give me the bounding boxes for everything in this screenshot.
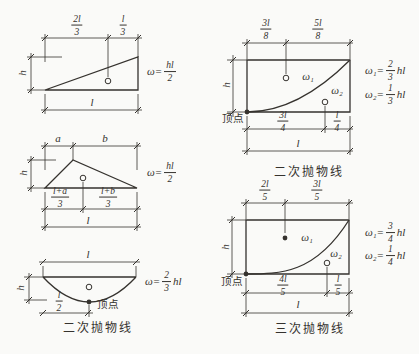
- ml-span-label: l: [86, 215, 89, 226]
- ml-dim-b-label: b: [102, 133, 108, 144]
- fraction-numerator: l+b: [99, 186, 117, 198]
- fraction-numerator: l: [334, 110, 341, 122]
- br-region2-formula: ω₂= 14 hl: [365, 244, 405, 268]
- fraction-numerator: 3l: [277, 110, 288, 122]
- bl-vertex-dot: [87, 300, 92, 305]
- tr-region2-label: ω₂: [331, 85, 343, 96]
- br-vertex-label: 顶点: [221, 277, 243, 288]
- bl-height-label: h: [15, 285, 26, 291]
- fraction-denominator: 3: [388, 96, 393, 107]
- fraction-numerator: hl: [164, 161, 175, 173]
- bl-area-formula: ω= 23 hl: [145, 270, 182, 294]
- fraction-numerator: l: [335, 274, 342, 286]
- fraction-denominator: 3: [121, 26, 126, 37]
- br-dim-top-right-label: 3l5: [311, 178, 322, 203]
- fraction-denominator: 2: [168, 73, 173, 84]
- formula-rhs: hl: [173, 277, 182, 288]
- fraction-denominator: 5: [281, 286, 286, 297]
- fraction-numerator: 3l: [311, 179, 322, 191]
- bl-span-label: l: [86, 249, 89, 260]
- tl-triangle-shape: [45, 57, 138, 90]
- tl-dim-top-right-label: l3: [120, 13, 127, 38]
- tr-dim-bot-right-label: l4: [334, 109, 341, 134]
- ml-centroid-marker: [80, 175, 86, 181]
- formula-lhs: ω₁=: [365, 228, 384, 239]
- br-region1-formula: ω₁= 34 hl: [365, 221, 405, 245]
- formula-lhs: ω₁=: [365, 66, 384, 77]
- ml-dim-bot-right-label: l+b3: [99, 185, 117, 210]
- formula-lhs: ω=: [145, 277, 160, 288]
- br-region2-label: ω₂: [330, 248, 342, 259]
- fraction-denominator: 4: [281, 122, 286, 133]
- fraction-numerator: 4l: [277, 274, 288, 286]
- formula-lhs: ω=: [147, 67, 162, 78]
- br-span-label: l: [296, 299, 299, 310]
- br-dim-bot-left-label: 4l5: [277, 273, 288, 298]
- fraction-denominator: 3: [164, 283, 169, 294]
- tr-region1-label: ω₁: [302, 71, 314, 82]
- tr-dim-top-right-label: 5l8: [312, 17, 323, 42]
- br-region1-label: ω₁: [301, 232, 313, 243]
- tr-vertex-dot: [245, 110, 250, 115]
- fraction-denominator: 3: [58, 198, 63, 209]
- br-dim-top-left-label: 2l5: [259, 178, 270, 203]
- formula-rhs: hl: [397, 228, 406, 239]
- tl-height-label: h: [17, 70, 28, 76]
- tr-region2-formula: ω₂= 13 hl: [365, 83, 405, 107]
- tl-centroid-marker: [105, 78, 111, 84]
- fraction-denominator: 5: [263, 191, 268, 202]
- br-caption: 三次抛物线: [275, 323, 345, 335]
- fraction-denominator: 3: [106, 198, 111, 209]
- formula-lhs: ω=: [147, 168, 162, 179]
- tr-dim-bot-left-label: 3l4: [277, 109, 288, 134]
- bl-vertex-label: 顶点: [97, 300, 119, 311]
- fraction-numerator: 2: [162, 270, 171, 282]
- fraction-numerator: 2: [386, 59, 395, 71]
- fraction-numerator: 1: [386, 244, 395, 256]
- fraction-numerator: l+a: [51, 186, 69, 198]
- tr-height-label: h: [221, 82, 232, 88]
- fraction-denominator: 5: [336, 286, 341, 297]
- tr-region1-formula: ω₁= 23 hl: [365, 59, 405, 83]
- tr-caption: 二次抛物线: [274, 166, 344, 178]
- fraction-denominator: 2: [57, 302, 62, 313]
- br-dim-bot-right-label: l5: [335, 273, 342, 298]
- bl-centroid-marker: [86, 284, 92, 290]
- tr-vertex-label: 顶点: [222, 114, 244, 125]
- formula-rhs: hl: [397, 90, 406, 101]
- bl-caption: 二次抛物线: [63, 322, 133, 334]
- fraction-numerator: 1: [386, 83, 395, 95]
- fraction-numerator: 3: [386, 221, 395, 233]
- ml-height-label: h: [18, 170, 29, 176]
- ml-dim-a-label: a: [55, 133, 61, 144]
- formula-lhs: ω₂=: [365, 90, 384, 101]
- tl-dim-top-left-label: 2l3: [71, 13, 82, 38]
- br-region1-centroid-dot: [283, 236, 288, 241]
- fraction-numerator: 3l: [260, 18, 271, 30]
- fraction-denominator: 3: [75, 26, 80, 37]
- figure-linework: [0, 0, 419, 354]
- ml-dim-bot-left-label: l+a3: [51, 185, 69, 210]
- ml-area-formula: ω= hl2: [147, 161, 178, 185]
- formula-rhs: hl: [397, 66, 406, 77]
- fraction-denominator: 8: [316, 30, 321, 41]
- formula-rhs: hl: [397, 251, 406, 262]
- br-vertex-dot: [244, 272, 249, 277]
- br-region2-centroid-marker: [324, 260, 330, 266]
- fraction-numerator: hl: [164, 60, 175, 72]
- tl-span-label: l: [90, 97, 93, 108]
- fraction-denominator: 2: [168, 174, 173, 185]
- fraction-numerator: l: [120, 14, 127, 26]
- bl-dim-half-label: l2: [56, 289, 63, 314]
- fraction-numerator: 5l: [312, 18, 323, 30]
- fraction-numerator: 2l: [71, 14, 82, 26]
- br-height-label: h: [220, 244, 231, 250]
- fraction-denominator: 5: [315, 191, 320, 202]
- tr-dim-top-left-label: 3l8: [260, 17, 271, 42]
- fraction-denominator: 4: [335, 122, 340, 133]
- fraction-numerator: 2l: [259, 179, 270, 191]
- geometric-properties-figure: 2l3 l3 h l ω= hl2 a b h l+a3 l+b3 l ω= h…: [0, 0, 419, 354]
- fraction-denominator: 3: [388, 72, 393, 83]
- tr-span-label: l: [296, 138, 299, 149]
- tl-area-formula: ω= hl2: [147, 60, 178, 84]
